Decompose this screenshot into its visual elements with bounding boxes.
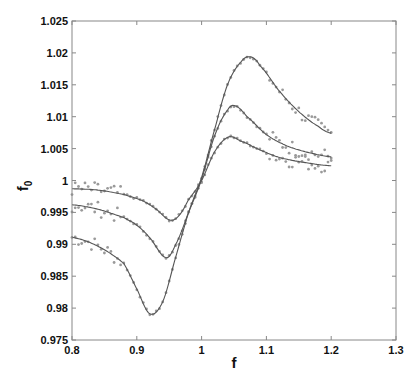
chart: 0.80.911.11.21.3 0.9750.980.9850.990.995… bbox=[0, 0, 415, 381]
data-point bbox=[323, 170, 326, 173]
data-point bbox=[268, 138, 271, 141]
data-point bbox=[100, 216, 103, 219]
x-tick-label: 1.3 bbox=[388, 344, 403, 356]
data-point bbox=[103, 212, 106, 215]
data-point bbox=[294, 156, 297, 159]
y-tick-label: 0.995 bbox=[40, 206, 68, 218]
data-point bbox=[284, 146, 287, 149]
y-tick-label: 1 bbox=[62, 175, 68, 187]
data-point bbox=[327, 161, 330, 164]
data-point bbox=[275, 159, 278, 162]
data-point bbox=[93, 181, 96, 184]
data-point bbox=[113, 185, 116, 188]
y-tick-label: 1.02 bbox=[47, 47, 68, 59]
data-point bbox=[307, 168, 310, 171]
data-point bbox=[119, 185, 122, 188]
data-point bbox=[281, 88, 284, 91]
data-point bbox=[307, 158, 310, 161]
data-point bbox=[323, 148, 326, 151]
data-point bbox=[106, 187, 109, 190]
data-point bbox=[77, 243, 80, 246]
data-point bbox=[90, 203, 93, 206]
data-point bbox=[310, 115, 313, 118]
x-tick-label: 1 bbox=[199, 344, 205, 356]
y-tick-label: 0.98 bbox=[47, 302, 68, 314]
data-point bbox=[77, 185, 80, 188]
data-point bbox=[294, 111, 297, 114]
data-point bbox=[297, 107, 300, 110]
data-point bbox=[84, 182, 87, 185]
data-point bbox=[93, 211, 96, 214]
data-point bbox=[268, 158, 271, 161]
y-tick-label: 0.99 bbox=[47, 238, 68, 250]
data-point bbox=[87, 203, 90, 206]
data-point bbox=[119, 264, 122, 267]
data-point bbox=[314, 116, 317, 119]
data-point bbox=[320, 171, 323, 174]
data-point bbox=[317, 165, 320, 168]
data-point bbox=[97, 183, 100, 186]
data-point bbox=[301, 154, 304, 157]
data-point bbox=[272, 131, 275, 134]
data-point bbox=[77, 206, 80, 209]
x-tick-label: 1.1 bbox=[259, 344, 274, 356]
data-point bbox=[297, 155, 300, 158]
data-point bbox=[113, 219, 116, 222]
data-point bbox=[314, 167, 317, 170]
data-point bbox=[74, 181, 77, 184]
x-tick-label: 0.9 bbox=[129, 344, 144, 356]
data-point bbox=[317, 118, 320, 121]
data-point bbox=[307, 114, 310, 117]
data-point bbox=[103, 252, 106, 255]
data-point bbox=[116, 207, 119, 210]
y-tick-label: 1.015 bbox=[40, 79, 68, 91]
data-point bbox=[288, 152, 291, 155]
data-point bbox=[113, 261, 116, 264]
data-point bbox=[87, 185, 90, 188]
data-point bbox=[106, 246, 109, 249]
data-point bbox=[304, 155, 307, 158]
data-point bbox=[110, 186, 113, 189]
data-point bbox=[327, 129, 330, 132]
data-point bbox=[284, 160, 287, 163]
data-point bbox=[275, 136, 278, 139]
data-point bbox=[80, 209, 83, 212]
data-point bbox=[291, 166, 294, 169]
data-point bbox=[80, 242, 83, 245]
data-point bbox=[301, 119, 304, 122]
data-point bbox=[323, 126, 326, 129]
data-point bbox=[74, 206, 77, 209]
data-point bbox=[304, 119, 307, 122]
x-tick-label: 1.2 bbox=[324, 344, 339, 356]
y-tick-label: 1.01 bbox=[47, 111, 68, 123]
data-point bbox=[330, 159, 333, 162]
data-point bbox=[281, 146, 284, 149]
y-tick-label: 0.985 bbox=[40, 270, 68, 282]
data-point bbox=[97, 201, 100, 204]
data-point bbox=[291, 108, 294, 111]
data-point bbox=[93, 237, 96, 240]
data-point bbox=[90, 248, 93, 251]
data-point bbox=[288, 166, 291, 169]
y-tick-label: 1.025 bbox=[40, 15, 68, 27]
data-point bbox=[110, 250, 113, 253]
data-point bbox=[320, 122, 323, 125]
data-point bbox=[317, 155, 320, 158]
y-tick-label: 0.975 bbox=[40, 334, 68, 346]
data-point bbox=[291, 141, 294, 144]
y-tick-label: 1.005 bbox=[40, 143, 68, 155]
